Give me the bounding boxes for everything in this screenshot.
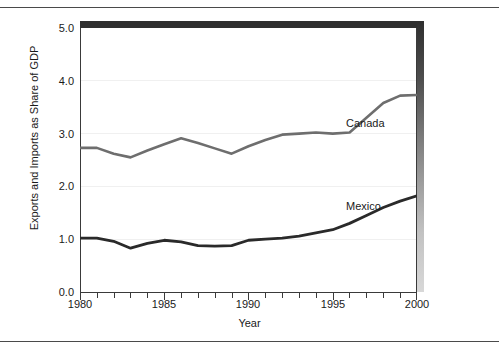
x-tick-1981 [97,293,98,298]
x-tick-1983 [130,293,131,298]
x-tick-1986 [181,293,182,298]
y-tick-0: 0.0 [44,287,74,298]
x-tick-1992 [282,293,283,298]
x-axis-title: Year [0,317,499,329]
figure-container: 5.0 4.0 3.0 2.0 1.0 0.0 [0,0,499,347]
x-tick-1988 [215,293,216,298]
series-layer [80,28,417,292]
top-rule [0,7,499,8]
x-label-1985: 1985 [152,299,176,310]
x-label-1995: 1995 [321,299,345,310]
x-tick-1996 [349,293,350,298]
series-label-canada: Canada [346,118,385,129]
y-tick-4: 4.0 [44,76,74,87]
x-tick-1989 [232,293,233,298]
x-tick-1987 [198,293,199,298]
frame-right-border [417,21,424,292]
x-tick-1999 [400,293,401,298]
y-tick-1: 1.0 [44,234,74,245]
bottom-rule [0,341,499,342]
x-label-1990: 1990 [236,299,260,310]
y-tick-2: 2.0 [44,181,74,192]
y-axis-tick-labels: 5.0 4.0 3.0 2.0 1.0 0.0 [42,28,74,292]
y-tick-5: 5.0 [44,23,74,34]
x-tick-1998 [383,293,384,298]
x-tick-1982 [114,293,115,298]
x-label-1980: 1980 [68,299,92,310]
x-tick-1994 [316,293,317,298]
x-tick-1993 [299,293,300,298]
x-tick-1984 [147,293,148,298]
x-tick-1991 [265,293,266,298]
x-axis-tick-labels: 1980 1985 1990 1995 2000 [80,299,425,313]
x-tick-1997 [366,293,367,298]
series-label-mexico: Mexico [346,201,381,212]
frame-top-border [80,21,424,28]
y-tick-3: 3.0 [44,129,74,140]
y-axis-title: Exports and Imports as Share of GDP [28,8,40,268]
x-label-2000: 2000 [405,299,429,310]
